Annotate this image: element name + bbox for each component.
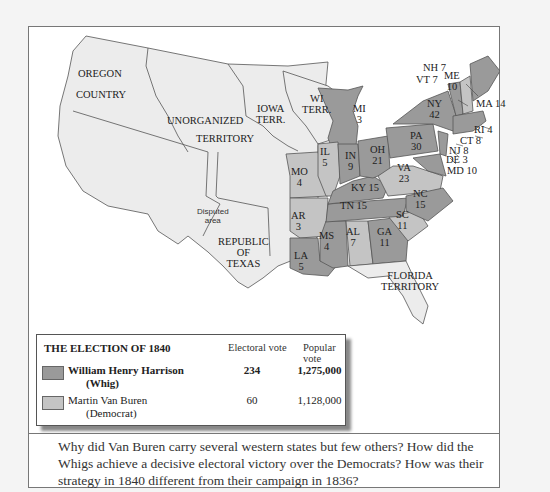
legend-row-harrison: William Henry Harrison(Whig) 234 1,275,0… xyxy=(42,364,342,392)
whig-swatch xyxy=(42,366,64,380)
state-label-sc: SC11 xyxy=(396,209,409,231)
state-label-ga: GA11 xyxy=(377,226,392,248)
state-label-nh: NH 7 xyxy=(423,62,446,73)
label-oregon-2: COUNTRY xyxy=(76,89,126,100)
state-label-ma: MA 14 xyxy=(476,98,505,109)
label-texas: REPUBLICOFTEXAS xyxy=(218,236,269,269)
label-iowa: IOWATERR. xyxy=(256,103,285,125)
state-label-il: IL5 xyxy=(320,146,330,168)
popular-vote: 1,128,000 xyxy=(292,394,347,406)
state-label-ms: MS4 xyxy=(319,230,334,252)
label-disputed: Disputedarea xyxy=(197,207,229,225)
legend-col-popular: Popular vote xyxy=(303,342,345,364)
state-me xyxy=(470,56,500,101)
state-label-oh: OH21 xyxy=(370,144,385,166)
state-label-de: DE 3 xyxy=(446,154,468,165)
candidate-name: William Henry Harrison(Whig) xyxy=(68,364,184,390)
popular-vote: 1,275,000 xyxy=(292,364,347,376)
electoral-vote: 234 xyxy=(232,364,272,376)
label-unorganized: UNORGANIZED xyxy=(167,115,243,126)
state-label-pa: PA30 xyxy=(410,130,422,152)
label-wisconsin: WITERR. xyxy=(302,93,331,115)
state-label-la: LA5 xyxy=(294,250,308,272)
state-label-me: ME10 xyxy=(444,70,460,92)
label-territory: TERRITORY xyxy=(196,133,254,144)
state-label-ky: KY 15 xyxy=(351,182,379,193)
democrat-swatch xyxy=(42,396,64,410)
caption-text: Why did Van Buren carry several western … xyxy=(58,438,488,489)
state-label-mo: MO4 xyxy=(291,166,308,188)
label-oregon: OREGON xyxy=(78,68,122,79)
state-label-vt: VT 7 xyxy=(416,74,438,85)
electoral-vote: 60 xyxy=(232,394,272,406)
state-label-ar: AR3 xyxy=(291,210,306,232)
legend-row-vanburen: Martin Van Buren(Democrat) 60 1,128,000 xyxy=(42,394,342,422)
legend-title: THE ELECTION OF 1840 xyxy=(44,342,170,354)
state-label-mi: MI3 xyxy=(353,103,366,125)
legend: THE ELECTION OF 1840 Electoral vote Popu… xyxy=(36,334,346,426)
label-florida: FLORIDATERRITORY xyxy=(381,270,439,292)
state-label-ny: NY42 xyxy=(427,98,442,120)
state-label-al: AL7 xyxy=(346,226,360,248)
state-label-va: VA23 xyxy=(397,162,411,184)
legend-col-electoral: Electoral vote xyxy=(228,342,287,353)
state-label-md: MD 10 xyxy=(447,165,477,176)
state-label-ri: RI 4 xyxy=(474,124,492,135)
state-label-in: IN9 xyxy=(345,150,356,172)
candidate-name: Martin Van Buren(Democrat) xyxy=(68,394,147,420)
state-label-tn: TN 15 xyxy=(340,200,367,211)
state-label-nc: NC15 xyxy=(413,188,428,210)
